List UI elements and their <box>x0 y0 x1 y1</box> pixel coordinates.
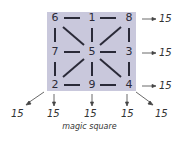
cell-r1c1: 6 <box>49 12 61 24</box>
cell-r1c2: 1 <box>86 12 98 24</box>
row-sum-1: 15 <box>159 13 172 25</box>
row-sum-3: 15 <box>159 80 172 92</box>
column-sum-2: 15 <box>84 108 97 120</box>
cell-r1c3: 8 <box>123 12 135 24</box>
cell-r3c1: 2 <box>49 79 61 91</box>
diagonal-sum-right: 15 <box>155 108 168 120</box>
cell-r3c2: 9 <box>86 79 98 91</box>
column-sum-3: 15 <box>121 108 134 120</box>
row-sum-2: 15 <box>159 47 172 59</box>
cell-r2c3: 3 <box>123 46 135 58</box>
cell-r2c1: 7 <box>49 46 61 58</box>
cell-r3c3: 4 <box>123 79 135 91</box>
column-sum-1: 15 <box>47 108 60 120</box>
cell-r2c2: 5 <box>86 46 98 58</box>
diagonal-sum-left: 15 <box>11 108 24 120</box>
caption: magic square <box>0 122 179 131</box>
